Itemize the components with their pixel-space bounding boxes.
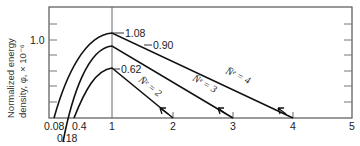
arrow-n3-icon [218,108,226,114]
curve-n3 [63,46,233,142]
arrow-n2-icon [160,108,168,114]
y-ticks-right [344,24,352,102]
curve-n4 [54,33,293,118]
arrows [160,108,286,114]
peak-label-n4: 1.08 [125,27,146,39]
chart-svg: 1.08 0.90 0.62 N̄ᵉ = 4 N̄ᵉ = 3 N̄ᵉ = 2 1… [0,0,360,146]
x-tick-label-0-4: 0.4 [72,120,87,132]
peak-label-n3: 0.90 [153,39,174,51]
y-axis-label-line1: Normalized energy [5,38,16,118]
peak-label-n2: 0.62 [121,63,142,75]
y-tick-label-1: 1.0 [30,34,45,46]
series-label-n4: N̄ᵉ = 4 [223,64,252,85]
x-tick-label-4: 4 [290,120,296,132]
series-label-n3: N̄ᵉ = 3 [190,72,219,95]
x-tick-label-1: 1 [109,120,115,132]
x-tick-label-0-18: 0.18 [57,132,78,144]
x-tick-label-5: 5 [349,120,355,132]
y-axis-label-line2: density, φ, × 10⁻⁶ [17,44,28,118]
plot-frame [49,7,352,118]
series-label-n2: N̄ᵉ = 2 [136,73,164,98]
x-tick-label-3: 3 [230,120,236,132]
x-tick-label-0-08: 0.08 [44,120,65,132]
x-tick-label-2: 2 [170,120,176,132]
y-ticks-left [49,24,57,102]
